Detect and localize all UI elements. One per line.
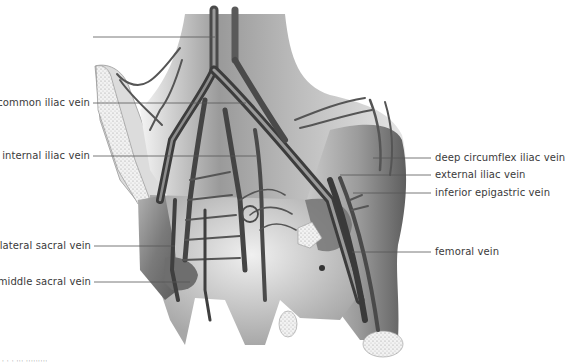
label-external-iliac-vein: external iliac vein xyxy=(435,169,526,181)
label-deep-circumflex-iliac-vein: deep circumflex iliac vein xyxy=(435,152,565,164)
footer-caption: · · · ··· ········· xyxy=(2,357,48,364)
ischium-bone-cut xyxy=(279,311,297,337)
label-middle-sacral-vein: middle sacral vein xyxy=(0,276,91,288)
label-lateral-sacral-vein: lateral sacral vein xyxy=(0,240,91,252)
label-internal-iliac-vein: internal iliac vein xyxy=(2,150,90,162)
label-femoral-vein: femoral vein xyxy=(435,246,499,258)
label-inferior-epigastric-vein: inferior epigastric vein xyxy=(435,187,550,199)
femur-bone-cut xyxy=(363,331,403,357)
label-common-iliac-vein: common iliac vein xyxy=(0,97,90,109)
